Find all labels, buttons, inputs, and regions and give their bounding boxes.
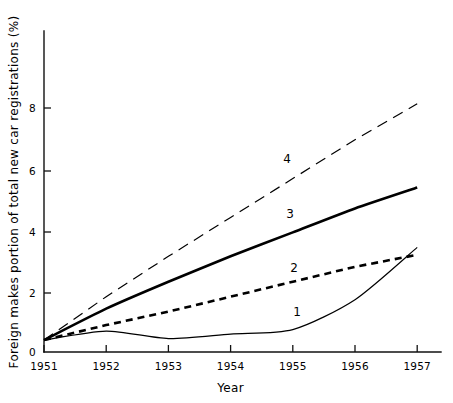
x-axis-title: Year <box>216 381 244 395</box>
y-tick-label-2: 2 <box>29 287 36 299</box>
series-label-2: 2 <box>290 261 298 275</box>
x-tick-label-1951: 1951 <box>30 360 58 372</box>
y-axis-ticks <box>44 108 51 293</box>
series-label-1: 1 <box>293 305 301 319</box>
x-tick-label-1955: 1955 <box>279 360 307 372</box>
y-tick-label-0: 0 <box>29 346 36 358</box>
series-label-4: 4 <box>283 152 291 166</box>
x-tick-label-1953: 1953 <box>155 360 183 372</box>
series-line-3 <box>44 188 417 340</box>
x-tick-label-1956: 1956 <box>341 360 369 372</box>
series-group <box>44 104 417 340</box>
x-tick-label-1954: 1954 <box>217 360 245 372</box>
y-tick-label-6: 6 <box>29 165 36 177</box>
y-tick-label-8: 8 <box>29 102 36 114</box>
series-label-3: 3 <box>286 207 294 221</box>
y-tick-label-4: 4 <box>29 226 36 238</box>
series-line-1 <box>44 247 417 340</box>
x-tick-label-1952: 1952 <box>92 360 120 372</box>
x-tick-label-1957: 1957 <box>403 360 431 372</box>
figure-container: 0 2 4 6 8 1951 1952 1953 1954 1955 1956 … <box>0 0 453 403</box>
line-chart: 0 2 4 6 8 1951 1952 1953 1954 1955 1956 … <box>0 0 453 403</box>
x-axis-ticks <box>44 345 417 352</box>
y-axis-title: Foreign makes portion of total new car r… <box>7 16 21 369</box>
series-line-4 <box>44 104 417 340</box>
series-line-2 <box>44 255 417 340</box>
